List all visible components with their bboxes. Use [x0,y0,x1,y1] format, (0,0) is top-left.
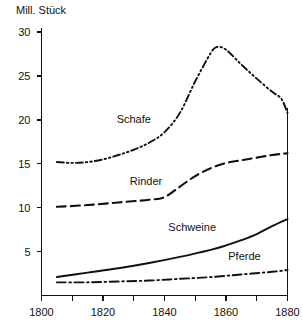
x-axis-tick-marks [42,296,288,302]
x-tick-label: 1820 [91,306,115,318]
x-tick-label: 1800 [29,306,53,318]
chart-container: Mill. Stück 51015202530 1800182018401860… [0,0,303,329]
x-tick-label: 1860 [214,306,238,318]
y-tick-label: 20 [18,114,30,126]
chart-title-group: Mill. Stück [16,4,67,16]
series-label-rinder: Rinder [130,175,163,187]
y-tick-label: 10 [18,202,30,214]
y-axis-title: Mill. Stück [16,4,67,16]
line-chart: Mill. Stück 51015202530 1800182018401860… [0,0,303,329]
series-inline-labels: SchafeRinderSchweinePferde [117,113,261,261]
x-tick-label: 1880 [275,306,299,318]
y-tick-label: 25 [18,70,30,82]
series-line-schafe [57,47,288,163]
x-axis-tick-labels: 18001820184018601880 [29,306,299,318]
x-tick-label: 1840 [152,306,176,318]
y-tick-label: 30 [18,26,30,38]
y-axis-tick-labels: 51015202530 [18,26,30,258]
y-tick-label: 5 [24,246,30,258]
series-label-schweine: Schweine [168,221,216,233]
series-label-pferde: Pferde [228,250,260,262]
y-tick-label: 15 [18,158,30,170]
series-label-schafe: Schafe [117,113,151,125]
series-lines [57,47,288,283]
